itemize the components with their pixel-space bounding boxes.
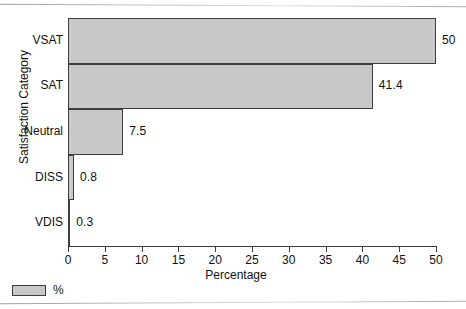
x-tick-label-35: 35 [319, 253, 332, 267]
x-tick-label-40: 40 [356, 253, 369, 267]
legend-swatch-percent [12, 285, 46, 296]
x-tick-45 [399, 247, 400, 252]
x-tick-35 [326, 247, 327, 252]
bar-neutral [68, 109, 123, 155]
scan-artifact-line-bottom [0, 301, 466, 304]
y-axis-label-vsat: VSAT [0, 33, 63, 47]
x-tick-5 [105, 247, 106, 252]
bar-value-diss: 0.8 [80, 170, 97, 184]
bar-diss [68, 155, 74, 201]
x-axis-title-text: Percentage [205, 268, 266, 282]
y-axis-title: Satisfaction Category [17, 17, 31, 197]
legend-label-percent: % [53, 283, 64, 297]
x-tick-25 [252, 247, 253, 252]
y-axis-label-vdis: VDIS [0, 215, 63, 229]
y-axis-label-neutral: Neutral [0, 124, 63, 138]
x-tick-label-25: 25 [245, 253, 258, 267]
bar-value-neutral: 7.5 [129, 124, 146, 138]
bar-chart-figure: 50VSAT41.4SAT7.5Neutral0.8DISS0.3VDIS 05… [0, 0, 466, 309]
scan-artifact-line-top [0, 4, 466, 7]
legend: % [12, 283, 64, 297]
x-tick-label-20: 20 [209, 253, 222, 267]
bar-vsat [68, 18, 436, 64]
x-tick-15 [178, 247, 179, 252]
x-tick-label-30: 30 [282, 253, 295, 267]
plot-area: 50VSAT41.4SAT7.5Neutral0.8DISS0.3VDIS [68, 18, 436, 246]
y-axis-label-diss: DISS [0, 170, 63, 184]
bar-value-sat: 41.4 [379, 78, 403, 92]
x-tick-label-50: 50 [429, 253, 442, 267]
bar-value-vsat: 50 [442, 33, 456, 47]
x-tick-label-5: 5 [101, 253, 108, 267]
x-tick-40 [362, 247, 363, 252]
x-tick-label-10: 10 [135, 253, 148, 267]
x-tick-10 [142, 247, 143, 252]
x-tick-label-45: 45 [393, 253, 406, 267]
x-tick-50 [436, 247, 437, 252]
bar-vdis [68, 200, 70, 246]
y-axis-label-sat: SAT [0, 78, 63, 92]
x-tick-0 [68, 247, 69, 252]
x-tick-label-0: 0 [65, 253, 72, 267]
x-axis-title: Percentage [0, 268, 466, 282]
x-tick-label-15: 15 [172, 253, 185, 267]
bar-value-vdis: 0.3 [76, 215, 93, 229]
x-tick-30 [289, 247, 290, 252]
bar-sat [68, 64, 373, 110]
x-tick-20 [215, 247, 216, 252]
